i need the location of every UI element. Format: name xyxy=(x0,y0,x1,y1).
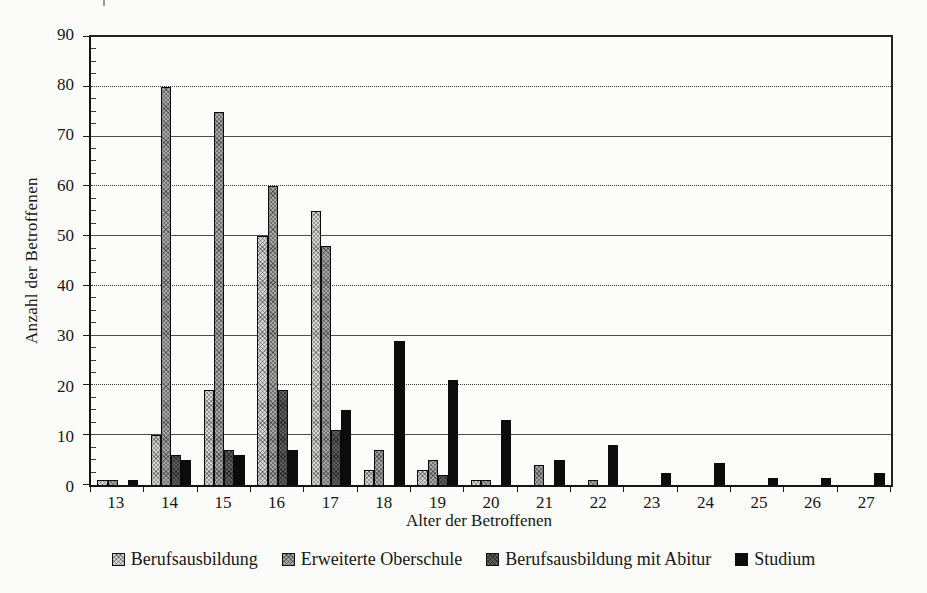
bar-studium-age-15 xyxy=(234,455,244,485)
y-minor-tick xyxy=(91,160,96,161)
y-major-tick-50 xyxy=(83,235,89,236)
x-tick-label-23: 23 xyxy=(643,493,660,513)
y-tick-label-0: 0 xyxy=(14,477,74,497)
scan-artifact xyxy=(103,0,105,6)
y-minor-tick xyxy=(91,48,96,49)
y-minor-tick xyxy=(91,272,96,273)
x-tick-label-25: 25 xyxy=(751,493,768,513)
x-tick-label-16: 16 xyxy=(268,493,285,513)
y-minor-tick xyxy=(91,297,96,298)
y-minor-tick xyxy=(91,447,96,448)
x-tick-label-17: 17 xyxy=(322,493,339,513)
y-tick-label-20: 20 xyxy=(14,377,74,397)
x-tick-label-21: 21 xyxy=(536,493,553,513)
y-minor-tick xyxy=(91,322,96,323)
bar-erweiterte-oberschule-age-14 xyxy=(161,87,171,485)
x-tick-label-24: 24 xyxy=(697,493,714,513)
bar-berufsausbildung-age-16 xyxy=(257,236,267,485)
y-major-tick-10 xyxy=(83,434,89,435)
bar-studium-age-20 xyxy=(501,420,511,485)
y-minor-tick xyxy=(91,409,96,410)
y-minor-tick xyxy=(91,223,96,224)
x-tick-label-19: 19 xyxy=(429,493,446,513)
legend-label-3: Berufsausbildung mit Abitur xyxy=(505,549,711,570)
y-minor-tick xyxy=(91,472,96,473)
x-tick-label-14: 14 xyxy=(161,493,178,513)
y-minor-tick xyxy=(91,73,96,74)
x-tick-label-13: 13 xyxy=(107,493,124,513)
bar-berufsausbildung-mit-abitur-age-15 xyxy=(224,450,234,485)
legend-item-1: Berufsausbildung xyxy=(112,549,258,570)
y-minor-tick xyxy=(91,422,96,423)
y-tick-label-70: 70 xyxy=(14,125,74,145)
y-tick-label-50: 50 xyxy=(14,226,74,246)
y-major-tick-40 xyxy=(83,285,89,286)
y-minor-tick xyxy=(91,198,96,199)
bar-studium-age-14 xyxy=(181,460,191,485)
bar-studium-age-23 xyxy=(661,473,671,485)
bar-studium-age-24 xyxy=(714,463,724,485)
y-minor-tick xyxy=(91,360,96,361)
y-major-tick-30 xyxy=(83,335,89,336)
y-tick-label-30: 30 xyxy=(14,326,74,346)
legend-label-1: Berufsausbildung xyxy=(131,549,258,570)
y-minor-tick xyxy=(91,260,96,261)
bar-berufsausbildung-mit-abitur-age-19 xyxy=(438,475,448,485)
bar-studium-age-16 xyxy=(288,450,298,485)
legend: BerufsausbildungErweiterte OberschuleBer… xyxy=(0,549,927,570)
y-axis-tick-labels: 0102030405060708090 xyxy=(18,35,82,487)
legend-label-4: Studium xyxy=(754,549,815,570)
legend-swatch-3 xyxy=(486,553,499,566)
y-minor-tick xyxy=(91,123,96,124)
y-major-tick-60 xyxy=(83,185,89,186)
x-tick-label-27: 27 xyxy=(858,493,875,513)
x-tick-label-20: 20 xyxy=(483,493,500,513)
bar-berufsausbildung-mit-abitur-age-14 xyxy=(171,455,181,485)
y-tick-label-10: 10 xyxy=(14,427,74,447)
y-minor-tick xyxy=(91,173,96,174)
y-tick-label-90: 90 xyxy=(14,25,74,45)
y-major-tick-70 xyxy=(83,136,89,137)
bar-studium-age-19 xyxy=(448,380,458,485)
bar-studium-age-13 xyxy=(128,480,138,485)
x-axis-tick-labels: 131415161718192021222324252627 xyxy=(89,487,893,511)
bar-erweiterte-oberschule-age-13 xyxy=(108,480,118,485)
legend-swatch-1 xyxy=(112,553,125,566)
bar-erweiterte-oberschule-age-22 xyxy=(588,480,598,485)
bar-chart: Anzahl der Betroffenen 01020304050607080… xyxy=(0,0,927,593)
x-tick-label-15: 15 xyxy=(214,493,231,513)
y-major-tick-80 xyxy=(83,86,89,87)
bar-studium-age-21 xyxy=(554,460,564,485)
y-minor-tick xyxy=(91,459,96,460)
bar-studium-age-22 xyxy=(608,445,618,485)
bar-erweiterte-oberschule-age-17 xyxy=(321,246,331,485)
plot-area xyxy=(89,35,893,487)
bar-berufsausbildung-age-19 xyxy=(417,470,427,485)
gridline-80 xyxy=(91,86,891,87)
bar-berufsausbildung-age-14 xyxy=(151,435,161,485)
bar-erweiterte-oberschule-age-19 xyxy=(428,460,438,485)
legend-item-3: Berufsausbildung mit Abitur xyxy=(486,549,711,570)
gridline-30 xyxy=(91,335,891,336)
x-axis-title: Alter der Betroffenen xyxy=(89,511,869,531)
gridline-50 xyxy=(91,235,891,236)
bar-berufsausbildung-age-13 xyxy=(97,480,107,485)
y-minor-tick xyxy=(91,248,96,249)
y-major-tick-20 xyxy=(83,384,89,385)
gridline-20 xyxy=(91,384,891,385)
y-minor-tick xyxy=(91,148,96,149)
legend-swatch-4 xyxy=(735,553,748,566)
y-minor-tick xyxy=(91,61,96,62)
y-tick-label-40: 40 xyxy=(14,276,74,296)
legend-swatch-2 xyxy=(282,553,295,566)
bar-studium-age-25 xyxy=(768,478,778,485)
y-minor-tick xyxy=(91,347,96,348)
bar-erweiterte-oberschule-age-16 xyxy=(268,186,278,485)
legend-item-2: Erweiterte Oberschule xyxy=(282,549,462,570)
bar-erweiterte-oberschule-age-18 xyxy=(374,450,384,485)
bar-erweiterte-oberschule-age-15 xyxy=(214,112,224,485)
gridline-40 xyxy=(91,285,891,286)
gridline-70 xyxy=(91,136,891,137)
bar-erweiterte-oberschule-age-20 xyxy=(481,480,491,485)
x-tick-label-26: 26 xyxy=(804,493,821,513)
